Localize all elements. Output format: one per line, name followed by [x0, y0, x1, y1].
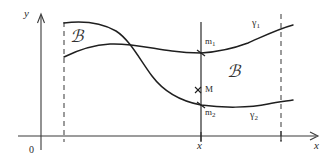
x-axis-label: x — [314, 140, 319, 151]
x-tick-label: x — [197, 140, 202, 151]
y-axis — [38, 14, 45, 150]
curve-label-gamma2: γ2 — [250, 110, 258, 122]
curve-label-gamma2-sub: 2 — [254, 114, 258, 122]
figure-canvas: y x 0 x ℬ ℬ m1 M m2 γ1 γ2 — [0, 0, 331, 166]
x-axis — [18, 132, 318, 140]
point-label-m1-base: m — [205, 36, 212, 46]
point-label-m1: m1 — [205, 37, 216, 48]
point-label-m2-base: m — [205, 107, 212, 117]
point-label-M: M — [205, 85, 213, 94]
marker-M — [195, 87, 201, 93]
origin-label: 0 — [29, 145, 34, 155]
point-label-m2-sub: 2 — [212, 111, 216, 119]
figure-drawing — [0, 0, 331, 166]
point-label-m1-sub: 1 — [212, 40, 216, 48]
curve-label-gamma1: γ1 — [252, 18, 260, 30]
y-axis-label: y — [24, 8, 29, 19]
curve-descending — [64, 22, 293, 107]
curve-label-gamma1-sub: 1 — [256, 22, 260, 30]
region-label-right: ℬ — [227, 63, 240, 80]
point-label-m2: m2 — [205, 108, 216, 119]
region-label-left: ℬ — [70, 28, 83, 45]
